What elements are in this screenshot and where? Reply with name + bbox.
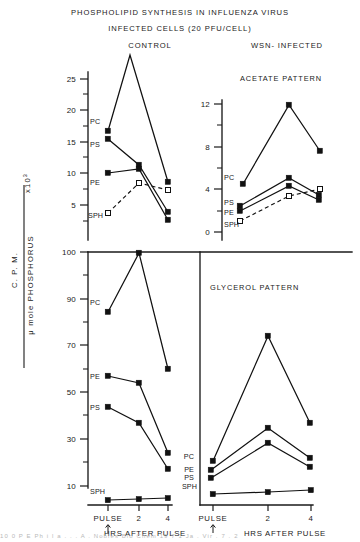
data-point-pc-3-0 <box>105 309 110 314</box>
figure-svg: PHOSPHOLIPID SYNTHESIS IN INFLUENZA VIRU… <box>0 0 360 542</box>
series-line-ps-3 <box>108 407 168 469</box>
y-axis-title-group: C. P. M. μ mole PHOSPHORUS x103 <box>10 173 35 368</box>
data-point-ps-2-1 <box>286 175 291 180</box>
data-point-sph-2-1 <box>287 194 292 199</box>
data-point-ps-3-0 <box>105 404 110 409</box>
series-line-pe-2 <box>240 186 319 211</box>
data-point-pe-2-0 <box>237 208 242 213</box>
series-line-pc-2 <box>243 105 320 184</box>
data-point-pc-4-2 <box>307 420 312 425</box>
y-tick-label-50-3: 50 <box>67 388 77 397</box>
series-label-pe-1: PE <box>90 178 100 187</box>
data-point-ps-3-2 <box>165 466 170 471</box>
panel-title-acetate: ACETATE PATTERN <box>240 74 322 83</box>
y-tick-label-8-2: 8 <box>205 143 210 152</box>
series-label-ps-3: PS <box>90 403 100 412</box>
data-point-pc-2-1 <box>286 102 291 107</box>
data-point-sph-1-0 <box>106 211 111 216</box>
data-point-ps-2-2 <box>316 192 321 197</box>
data-point-ps-4-2 <box>307 464 312 469</box>
x-tick-label-2-right: 2 <box>265 514 270 523</box>
y-tick-label-100-3: 100 <box>62 248 76 257</box>
series-label-pe-2: PE <box>224 208 234 217</box>
y-tick-label-70-3: 70 <box>67 341 77 350</box>
x-tick-label-4-right: 4 <box>308 514 313 523</box>
y-tick-label-10-3: 10 <box>67 482 77 491</box>
x-tick-label-pulse-left: PULSE <box>93 514 122 523</box>
y-tick-label-0-2: 0 <box>205 228 210 237</box>
y-axis-title-exponent: x103 <box>22 173 32 193</box>
data-point-sph-4-2 <box>308 488 313 493</box>
data-point-sph-2-2 <box>318 187 323 192</box>
data-point-pc-4-0 <box>210 458 215 463</box>
data-point-pe-2-2 <box>316 197 321 202</box>
series-line-ps-4 <box>211 443 310 478</box>
data-point-pc-3-1 <box>136 250 141 255</box>
data-point-ps-4-1 <box>265 440 270 445</box>
data-point-sph-1-2 <box>166 188 171 193</box>
series-label-sph-1: SPH <box>88 211 103 220</box>
series-line-pe-1 <box>108 169 168 220</box>
data-point-pe-1-0 <box>105 170 110 175</box>
panel-acetate-infected: ACETATE PATTERN 12 8 4 0 <box>201 74 323 240</box>
column-header-control: CONTROL <box>128 41 171 50</box>
data-point-sph-4-1 <box>265 490 270 495</box>
panel-title-glycerol: GLYCEROL PATTERN <box>210 283 299 292</box>
series-label-ps-2: PS <box>224 198 234 207</box>
data-point-ps-2-0 <box>237 203 242 208</box>
series-label-sph-3: SPH <box>90 487 105 496</box>
y-tick-label-4-2: 4 <box>205 185 210 194</box>
data-point-pc-3-2 <box>165 366 170 371</box>
data-point-pe-4-2 <box>307 455 312 460</box>
series-line-pe-4 <box>211 428 310 470</box>
y-tick-label-5-1: 5 <box>71 201 76 210</box>
data-point-pe-2-1 <box>286 183 291 188</box>
y-axis-title-denominator: μ mole PHOSPHORUS <box>26 235 35 334</box>
y-tick-label-20-1: 20 <box>67 106 77 115</box>
x-tick-label-4-left: 4 <box>165 514 170 523</box>
series-label-pc-3: PC <box>90 298 100 307</box>
data-point-pe-4-0 <box>208 467 213 472</box>
y-tick-label-15-1: 15 <box>67 138 77 147</box>
x-tick-label-pulse-right: PULSE <box>198 514 227 523</box>
series-line-pe-3 <box>108 376 168 453</box>
data-point-pc-2-2 <box>317 148 322 153</box>
data-point-pe-3-1 <box>136 380 141 385</box>
data-point-pc-1-2 <box>165 179 170 184</box>
y-tick-label-30-3: 30 <box>67 435 77 444</box>
y-tick-label-25-1: 25 <box>67 75 77 84</box>
series-line-sph-4 <box>213 490 311 494</box>
column-header-infected: WSN- INFECTED <box>251 41 323 50</box>
data-point-sph-3-0 <box>105 498 110 503</box>
series-label-sph-2: SPH <box>224 220 239 229</box>
series-label-pe-3: PE <box>90 372 100 381</box>
data-point-pe-1-2 <box>165 217 170 222</box>
data-point-sph-3-2 <box>165 496 170 501</box>
data-point-sph-4-0 <box>210 492 215 497</box>
data-point-pe-3-0 <box>105 373 110 378</box>
data-point-pe-4-1 <box>265 425 270 430</box>
data-point-sph-1-1 <box>137 181 142 186</box>
footer-cropped-caption: 10 0 P E Ph i l a . . . A . Nobles Bio C… <box>0 533 360 542</box>
data-point-ps-3-1 <box>136 420 141 425</box>
panel-glycerol-control: 100 90 70 50 30 10 <box>62 248 352 538</box>
figure-root: PHOSPHOLIPID SYNTHESIS IN INFLUENZA VIRU… <box>0 0 360 542</box>
figure-title-line-1: PHOSPHOLIPID SYNTHESIS IN INFLUENZA VIRU… <box>71 8 289 17</box>
data-point-pc-2-0 <box>240 181 245 186</box>
series-label-sph-4: SPH <box>182 482 197 491</box>
series-label-pc-1: PC <box>90 117 100 126</box>
data-point-ps-4-0 <box>208 475 213 480</box>
y-tick-label-12-2: 12 <box>201 100 211 109</box>
figure-title-line-2: INFECTED CELLS (20 PFU/CELL) <box>108 24 251 33</box>
data-point-pe-3-2 <box>165 450 170 455</box>
data-point-pc-4-1 <box>265 333 270 338</box>
panel-glycerol-infected: GLYCEROL PATTERN PC PE PS <box>182 252 326 538</box>
panel-acetate-control: 25 20 15 10 5 PC PS <box>67 55 171 240</box>
y-axis-title-numerator: C. P. M. <box>10 252 19 288</box>
data-point-ps-1-2 <box>165 209 170 214</box>
x-tick-label-2-left: 2 <box>136 514 141 523</box>
series-line-pc-4 <box>213 336 310 461</box>
series-label-ps-4: PS <box>184 473 194 482</box>
series-line-pc-3 <box>108 253 168 369</box>
y-tick-label-90-3: 90 <box>67 295 77 304</box>
